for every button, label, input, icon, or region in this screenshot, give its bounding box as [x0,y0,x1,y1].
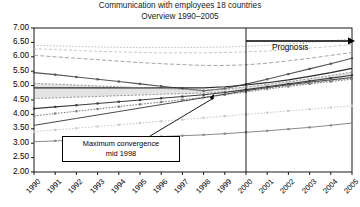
y-axis-tick-label: 4.50 [0,95,29,104]
max-convergence-callout: Maximum convergence mid 1998 [62,136,180,162]
y-axis-tick-label: 6.00 [0,51,29,60]
chart-container: Communication with employees 18 countrie… [0,0,360,207]
y-axis-tick-label: 3.00 [0,138,29,147]
y-axis-tick-label: 5.50 [0,66,29,75]
y-axis-tick-label: 5.00 [0,80,29,89]
max-convergence-line2: mid 1998 [67,149,175,159]
prognosis-annotation-label: Prognosis [272,43,308,52]
y-axis-tick-label: 6.50 [0,37,29,46]
y-axis-tick-label: 2.50 [0,152,29,161]
y-axis-tick-label: 2.00 [0,167,29,176]
y-axis-tick-label: 4.00 [0,109,29,118]
y-axis-tick-label: 7.00 [0,23,29,32]
max-convergence-line1: Maximum convergence [67,139,175,149]
y-axis-tick-label: 3.50 [0,123,29,132]
plot-area [0,0,360,207]
